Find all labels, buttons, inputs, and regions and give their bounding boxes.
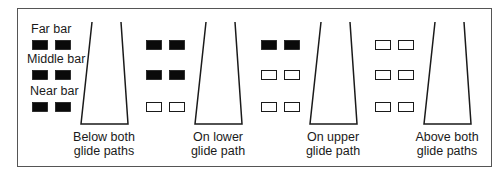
light-off [399,103,414,112]
panel-caption: glide path [306,144,360,158]
legend-label: Far bar [31,22,71,36]
light-off [147,103,162,112]
light-off [285,103,300,112]
light-on [170,71,185,80]
panel-caption: Above both [415,130,478,144]
glide-path-diagram: Far barMiddle barNear barBelow bothglide… [0,0,500,176]
light-off [376,41,391,50]
light-on [33,103,48,112]
legend-label: Middle bar [27,52,85,66]
light-off [399,71,414,80]
light-on [33,41,48,50]
light-off [262,103,277,112]
panel-caption: glide paths [417,144,477,158]
light-on [170,41,185,50]
legend-label: Near bar [30,84,79,98]
light-off [285,71,300,80]
light-off [170,103,185,112]
panel-caption: Below both [73,130,135,144]
light-on [33,71,48,80]
light-on [147,71,162,80]
light-on [262,41,277,50]
light-off [399,41,414,50]
panel-caption: glide path [191,144,245,158]
panel-caption: glide paths [74,144,134,158]
light-on [147,41,162,50]
light-off [262,71,277,80]
light-on [56,71,71,80]
light-off [376,71,391,80]
light-on [56,103,71,112]
light-on [285,41,300,50]
light-off [376,103,391,112]
panel-caption: On upper [307,130,359,144]
light-on [56,41,71,50]
panel-caption: On lower [193,130,243,144]
